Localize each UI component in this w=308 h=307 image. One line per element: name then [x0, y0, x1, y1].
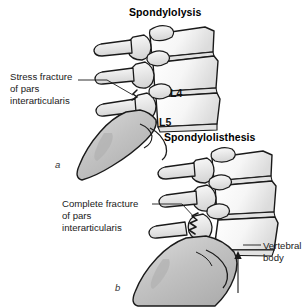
- bone-label-l4: L4: [170, 87, 182, 99]
- panel-b-artwork: [133, 148, 278, 306]
- panel-letter-a: a: [55, 159, 60, 170]
- complete-fracture-callout-line3: interarticularis: [62, 222, 138, 234]
- stress-fracture-callout: Stress fracture of pars interarticularis: [10, 71, 72, 108]
- complete-fracture-callout-line1: Complete fracture: [62, 198, 138, 210]
- stress-fracture-callout-line2: of pars: [10, 83, 72, 95]
- spine-pathology-figure: L4 L5: [0, 0, 308, 307]
- panel-a-title: Spondylolysis: [129, 6, 201, 18]
- detached-posterior-element: [149, 222, 187, 238]
- cropped-caption-strip: [10, 302, 298, 305]
- stress-fracture-callout-line3: interarticularis: [10, 95, 72, 107]
- panel-a-spinous-processes: [94, 40, 136, 116]
- complete-fracture-callout-line2: of pars: [62, 210, 138, 222]
- panel-b-title: Spondylolisthesis: [164, 131, 256, 143]
- complete-fracture-callout: Complete fracture of pars interarticular…: [62, 198, 138, 235]
- bone-label-l5: L5: [159, 116, 171, 128]
- vertebral-body-label-line1: Vertebral: [263, 240, 301, 252]
- vertebral-body-label-line2: body: [263, 252, 301, 264]
- anatomical-illustration: L4 L5: [0, 0, 308, 307]
- stress-fracture-callout-line1: Stress fracture: [10, 71, 72, 83]
- panel-letter-b: b: [115, 282, 120, 293]
- vertebral-body-label: Vertebral body: [263, 240, 301, 264]
- panel-a-artwork: L4 L5: [77, 26, 220, 180]
- panel-a-sacrum: [77, 110, 166, 180]
- panel-b-sacrum: [133, 236, 237, 306]
